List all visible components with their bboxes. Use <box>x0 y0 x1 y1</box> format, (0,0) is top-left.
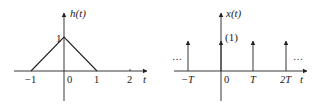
left-ylabel: h(t) <box>70 7 86 20</box>
right-ylabel: x(t) <box>225 7 242 20</box>
diagram-canvas: h(t) 1 −1 0 1 2 t x(t) (1) … … −T 0 T 2T… <box>0 0 317 108</box>
peak-label: 1 <box>56 32 62 44</box>
tick-label-T: T <box>250 74 257 85</box>
tick-label-2T: 2T <box>280 74 292 85</box>
tick-label-1: 1 <box>94 74 99 85</box>
right-xlabel: t <box>300 73 304 85</box>
ellipsis-left: … <box>172 51 182 62</box>
tick-label-2: 2 <box>127 74 132 85</box>
ellipsis-right: … <box>293 51 303 62</box>
tick-label-neg-T: −T <box>181 74 195 85</box>
impulse-weight-label: (1) <box>225 31 238 44</box>
tick-label-0: 0 <box>67 74 72 85</box>
x-of-t-plot: x(t) (1) … … −T 0 T 2T t <box>172 7 307 101</box>
left-xlabel: t <box>143 73 147 85</box>
h-of-t-plot: h(t) 1 −1 0 1 2 t <box>14 7 147 101</box>
tick-label-0-right: 0 <box>224 74 229 85</box>
tick-label-neg1: −1 <box>25 74 36 85</box>
